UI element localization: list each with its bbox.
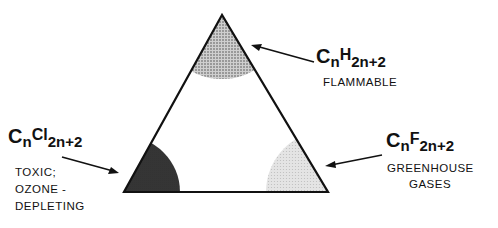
formula-chlorocarbon: CnCl2n+2	[8, 126, 82, 149]
formula-subscript-n: n	[22, 133, 31, 150]
formula-hydrocarbon: CnH2n+2	[316, 46, 386, 69]
formula-subscript-n: n	[330, 53, 339, 70]
ternary-diagram	[0, 0, 498, 228]
greenhouse-region	[266, 130, 390, 228]
label-ozone: OZONE -	[15, 182, 66, 196]
arrow-left	[62, 157, 119, 174]
toxic-region	[68, 136, 180, 228]
formula-element: H	[340, 46, 352, 63]
arrow-top	[251, 44, 314, 62]
formula-subscript-count: 2n+2	[48, 133, 83, 150]
formula-base: C	[8, 125, 22, 147]
label-flammable: FLAMMABLE	[323, 75, 397, 89]
arrow-right	[325, 155, 382, 168]
formula-base: C	[316, 45, 330, 67]
formula-base: C	[386, 129, 400, 151]
label-greenhouse: GREENHOUSE	[387, 161, 474, 175]
formula-subscript-count: 2n+2	[419, 137, 454, 154]
label-gases: GASES	[409, 177, 451, 191]
flammable-region	[158, 0, 286, 79]
label-toxic: TOXIC;	[15, 165, 56, 179]
label-depleting: DEPLETING	[15, 199, 85, 213]
formula-subscript-n: n	[400, 137, 409, 154]
formula-fluorocarbon: CnF2n+2	[386, 130, 454, 153]
formula-subscript-count: 2n+2	[351, 53, 386, 70]
formula-element: F	[410, 130, 420, 147]
formula-element: Cl	[32, 126, 48, 143]
